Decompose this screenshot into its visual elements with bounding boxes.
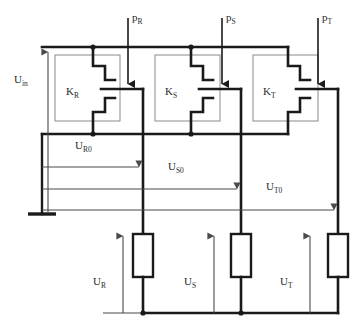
load-lower-conductors (143, 277, 338, 313)
label-ut: UT (280, 276, 293, 290)
node-dot-s-bot (188, 131, 193, 136)
circuit-diagram: Uin pR pS pT KR KS KT UR0 US0 UT0 UR US … (0, 0, 359, 326)
node-dot-r-bot (90, 131, 95, 136)
label-ut0: UT0 (266, 181, 282, 195)
node-dot-neutral-r (140, 310, 145, 315)
label-us0: US0 (168, 161, 184, 175)
label-kt: KT (263, 86, 276, 100)
resistor-r (133, 234, 153, 277)
label-kr: KR (66, 86, 79, 100)
label-pt: pT (322, 12, 332, 26)
label-pr: pR (132, 12, 143, 26)
node-voltage-arrows (42, 167, 334, 210)
node-dot-s-top (188, 44, 193, 49)
label-ur: UR (93, 276, 106, 290)
node-dot-neutral-s (238, 310, 243, 315)
resistor-t (328, 234, 348, 277)
label-ur0: UR0 (75, 140, 92, 154)
label-ps: pS (226, 12, 236, 26)
node-dot-r-top (90, 44, 95, 49)
label-ks: KS (165, 86, 177, 100)
label-us: US (184, 276, 196, 290)
resistor-s (231, 234, 251, 277)
label-uin: Uin (14, 74, 28, 88)
